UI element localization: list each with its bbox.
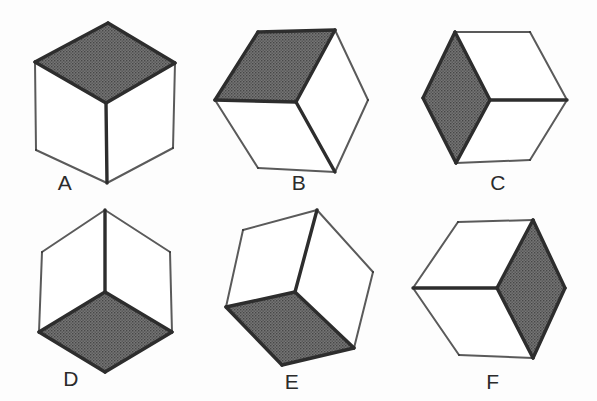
cube-c-label: C	[490, 171, 506, 194]
cube-a[interactable]	[35, 23, 175, 183]
cubes-layer	[35, 23, 567, 372]
figure-container: ABCDEF	[0, 0, 597, 401]
cube-c[interactable]	[423, 32, 567, 163]
cube-a-edge-heavy-4	[106, 103, 107, 183]
cube-b-label: B	[292, 171, 307, 194]
cube-b-edge-heavy-0	[258, 30, 335, 32]
cube-a-label: A	[58, 171, 73, 194]
cube-a-edge-light-0	[35, 62, 36, 150]
cube-figure-svg: ABCDEF	[0, 0, 597, 401]
cube-b-edge-heavy-2	[215, 100, 296, 102]
cube-e-label: E	[285, 370, 300, 393]
cube-d[interactable]	[39, 210, 172, 372]
cube-f[interactable]	[413, 220, 565, 358]
cube-f-label: F	[486, 370, 499, 393]
cube-b[interactable]	[215, 30, 368, 172]
cube-d-label: D	[63, 367, 79, 390]
cube-e[interactable]	[226, 210, 373, 365]
